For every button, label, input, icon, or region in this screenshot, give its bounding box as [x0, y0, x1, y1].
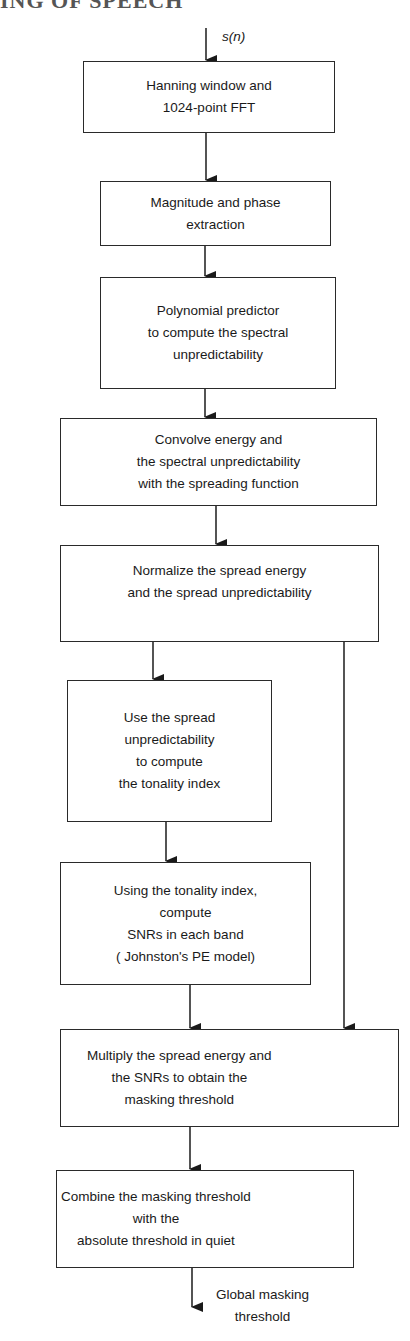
step-convolve-text: Convolve energy and the spectral unpredi… — [137, 429, 301, 495]
step-snr-bands: Using the tonality index, compute SNRs i… — [60, 862, 311, 985]
step-combine-text: Combine the masking threshold with the a… — [61, 1186, 251, 1252]
step-normalize-text: Normalize the spread energy and the spre… — [128, 560, 312, 604]
step-tonality-index-text: Use the spread unpredictability to compu… — [119, 707, 220, 795]
step-hanning-fft: Hanning window and 1024-point FFT — [83, 61, 335, 133]
step-polynomial-predictor-text: Polynomial predictor to compute the spec… — [148, 300, 288, 366]
step-multiply: Multiply the spread energy and the SNRs … — [60, 1029, 399, 1127]
step-combine: Combine the masking threshold with the a… — [56, 1170, 354, 1268]
step-hanning-fft-text: Hanning window and 1024-point FFT — [146, 75, 271, 119]
output-label: Global masking threshold — [216, 1284, 309, 1328]
step-normalize: Normalize the spread energy and the spre… — [60, 545, 379, 642]
step-multiply-text: Multiply the spread energy and the SNRs … — [87, 1045, 272, 1111]
step-polynomial-predictor: Polynomial predictor to compute the spec… — [100, 277, 336, 389]
step-magnitude-phase: Magnitude and phase extraction — [100, 181, 331, 246]
step-convolve: Convolve energy and the spectral unpredi… — [60, 418, 377, 506]
step-magnitude-phase-text: Magnitude and phase extraction — [151, 192, 281, 236]
step-tonality-index: Use the spread unpredictability to compu… — [67, 680, 272, 822]
input-signal-label: s(n) — [222, 26, 245, 48]
step-snr-bands-text: Using the tonality index, compute SNRs i… — [114, 880, 257, 968]
